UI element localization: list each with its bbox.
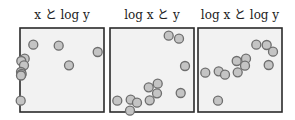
data-point: [17, 71, 26, 80]
data-point: [232, 57, 241, 66]
data-point: [181, 62, 190, 71]
panel-title: log x と y: [124, 8, 180, 22]
data-point: [264, 61, 273, 70]
data-point: [269, 47, 278, 56]
data-point: [93, 48, 102, 57]
data-point: [176, 89, 185, 98]
data-point: [144, 83, 153, 92]
data-point: [54, 41, 63, 50]
data-point: [113, 96, 122, 105]
data-point: [241, 61, 250, 70]
data-point: [153, 89, 162, 98]
data-point: [65, 61, 74, 70]
panel-title: x と log y: [34, 8, 90, 22]
panel-log-x-log-y: log x と log y: [198, 8, 282, 112]
data-point: [201, 68, 210, 77]
data-point: [252, 40, 261, 49]
panel-log-x-y: log x と y: [110, 8, 194, 115]
scatter-comparison-chart: x と log y log x と y log x と log y: [0, 0, 295, 120]
data-point: [29, 40, 38, 49]
data-point: [133, 98, 142, 107]
data-point: [16, 96, 25, 105]
data-point: [126, 106, 135, 115]
data-point: [221, 70, 230, 79]
data-point: [145, 96, 154, 105]
panel-x-log-y: x と log y: [16, 8, 104, 112]
data-point: [164, 31, 173, 40]
data-point: [214, 96, 223, 105]
panel-title: log x と log y: [201, 8, 280, 22]
data-point: [233, 68, 242, 77]
data-point: [175, 34, 184, 43]
data-point: [153, 79, 162, 88]
